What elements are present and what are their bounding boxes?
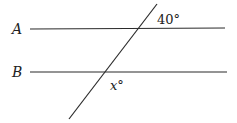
transversal-line [69, 4, 157, 119]
line-b-label: B [11, 64, 22, 80]
line-a [30, 28, 225, 29]
angle-x-label: x° [110, 78, 124, 93]
line-a-label: A [10, 21, 22, 37]
parallel-lines-diagram: A B 40° x° [0, 0, 237, 123]
angle-40-label: 40° [157, 12, 180, 27]
